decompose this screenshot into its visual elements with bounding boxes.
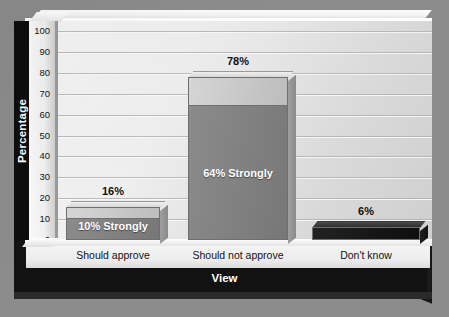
y-axis: 1009080706050403020100 xyxy=(29,21,58,240)
y-tick-20: 20 xyxy=(26,193,50,203)
y-axis-title-panel: Percentage xyxy=(14,21,29,240)
bar-chart-3d: 16%10% Strongly78%64% Strongly6% 1009080… xyxy=(0,0,449,317)
bar-3[interactable] xyxy=(312,227,420,240)
y-tick-10: 10 xyxy=(26,214,50,224)
bar-side-face xyxy=(160,205,168,244)
bar-value-label-1: 16% xyxy=(66,185,160,197)
y-tick-40: 40 xyxy=(26,151,50,161)
bar-side-face xyxy=(288,75,296,244)
bar-value-label-2: 78% xyxy=(188,55,288,67)
gridline-highlight-90 xyxy=(25,53,432,54)
y-tick-100: 100 xyxy=(26,26,50,36)
y-tick-80: 80 xyxy=(26,68,50,78)
y-tick-60: 60 xyxy=(26,110,50,120)
base-slab-shadow xyxy=(14,292,432,299)
bar-segment-total xyxy=(188,77,288,106)
y-axis-title: Percentage xyxy=(16,98,28,162)
y-tick-70: 70 xyxy=(26,89,50,99)
plot-floor xyxy=(25,239,432,246)
y-tick-90: 90 xyxy=(26,47,50,57)
bar-value-label-3: 6% xyxy=(312,205,420,217)
category-label-3: Don't know xyxy=(290,249,442,261)
bar-inner-label-1: 10% Strongly xyxy=(66,220,160,232)
y-tick-50: 50 xyxy=(26,131,50,141)
category-label-2: Should not approve xyxy=(166,249,310,261)
x-axis-title: View xyxy=(0,272,449,284)
bar-2[interactable] xyxy=(188,77,288,240)
gridline-highlight-100 xyxy=(25,32,432,33)
bar-segment-total xyxy=(312,227,420,240)
category-label-1: Should approve xyxy=(44,249,182,261)
bar-inner-label-2: 64% Strongly xyxy=(188,167,288,179)
y-tick-30: 30 xyxy=(26,172,50,182)
